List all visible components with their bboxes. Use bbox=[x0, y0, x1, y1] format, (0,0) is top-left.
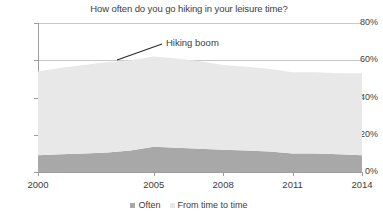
legend-label-often: Often bbox=[138, 200, 160, 210]
chart-title: How often do you go hiking in your leisu… bbox=[0, 3, 378, 14]
x-tick-label-2005: 2005 bbox=[132, 179, 176, 190]
x-tick-2005 bbox=[154, 172, 155, 176]
legend-item-often[interactable]: Often bbox=[130, 200, 160, 210]
legend-label-from-time-to-time: From time to time bbox=[178, 200, 248, 210]
chart-legend: Often From time to time bbox=[0, 200, 378, 210]
annotation-label: Hiking boom bbox=[166, 37, 219, 48]
x-tick-2011 bbox=[293, 172, 294, 176]
x-axis-line bbox=[38, 172, 363, 173]
x-tick-2008 bbox=[223, 172, 224, 176]
x-tick-label-2000: 2000 bbox=[16, 179, 60, 190]
legend-swatch-from-time-to-time bbox=[170, 203, 175, 208]
x-tick-2000 bbox=[38, 172, 39, 176]
x-tick-label-2014: 2014 bbox=[340, 179, 383, 190]
legend-item-from-time-to-time[interactable]: From time to time bbox=[170, 200, 248, 210]
area-series-from-time-to-time bbox=[38, 57, 362, 156]
x-tick-label-2011: 2011 bbox=[271, 179, 315, 190]
legend-swatch-often bbox=[130, 203, 135, 208]
x-tick-label-2008: 2008 bbox=[201, 179, 245, 190]
x-tick-2014 bbox=[362, 172, 363, 176]
